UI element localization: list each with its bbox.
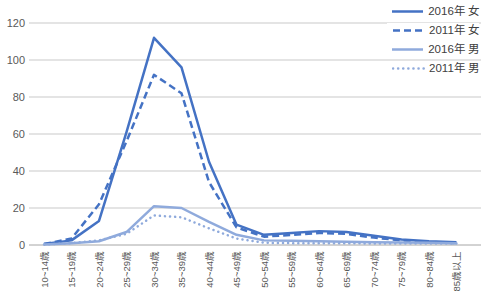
x-axis-tick-label: 50~54歳 (259, 251, 270, 288)
y-axis-tick-label: 80 (13, 91, 25, 103)
legend-label: 2016年 男 (428, 43, 479, 56)
legend-line-sample-icon (392, 24, 425, 37)
y-axis-tick-label: 100 (7, 54, 25, 66)
legend-label: 2011年 女 (429, 24, 479, 37)
x-axis-tick-label: 40~44歳 (204, 251, 215, 288)
legend-label: 2016年 女 (428, 5, 479, 18)
legend-item-2011-male: 2011年 男 (387, 61, 479, 76)
legend-line-sample-icon (391, 5, 424, 18)
y-axis-tick-label: 60 (13, 128, 25, 140)
x-axis-tick-label: 80~84歳 (424, 251, 435, 288)
x-axis-tick-label: 70~74歳 (369, 251, 380, 288)
x-axis-tick-label: 20~24歳 (94, 251, 105, 288)
legend-item-2016-female: 2016年 女 (387, 4, 479, 19)
y-axis-tick-label: 120 (7, 17, 25, 29)
legend-line-sample-icon (392, 62, 425, 75)
x-axis-tick-label: 75~79歳 (396, 251, 407, 288)
x-axis-tick-label: 45~49歳 (231, 251, 242, 288)
x-axis-tick-label: 55~59歳 (286, 251, 297, 288)
y-axis-tick-label: 20 (13, 202, 25, 214)
x-axis-tick-label: 30~34歳 (149, 251, 160, 288)
x-axis-tick-label: 85歳以上 (451, 251, 462, 292)
legend-item-2011-female: 2011年 女 (387, 23, 479, 38)
legend-line-sample-icon (391, 43, 424, 56)
x-axis-tick-label: 35~39歳 (176, 251, 187, 288)
series-line-1 (44, 75, 457, 244)
y-axis-tick-label: 0 (19, 239, 25, 251)
x-axis-tick-label: 15~19歳 (66, 251, 77, 288)
x-axis-tick-label: 65~69歳 (341, 251, 352, 288)
legend-label: 2011年 男 (429, 62, 479, 75)
x-axis-tick-label: 25~29歳 (121, 251, 132, 288)
line-chart: 02040608010012010~14歳15~19歳20~24歳25~29歳3… (0, 0, 484, 300)
x-axis-tick-label: 10~14歳 (39, 251, 50, 288)
legend-item-2016-male: 2016年 男 (387, 42, 479, 57)
chart-legend: 2016年 女 2011年 女 2016年 男 2011年 男 (387, 4, 479, 76)
x-axis-tick-label: 60~64歳 (314, 251, 325, 288)
y-axis-tick-label: 40 (13, 165, 25, 177)
